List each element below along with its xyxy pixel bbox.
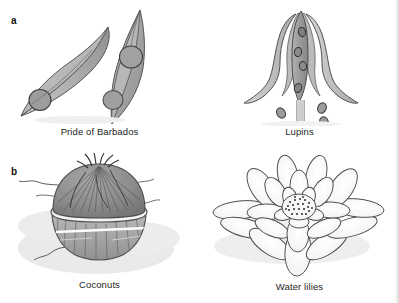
caption-pride-of-barbados: Pride of Barbados <box>0 126 199 137</box>
coconut-icon <box>0 152 199 278</box>
water-lily-icon <box>200 152 399 278</box>
figure-cell-pride-of-barbados: Pride of Barbados <box>0 0 199 151</box>
figure-cell-lupins: Lupins <box>200 0 399 151</box>
caption-water-lilies: Water lilies <box>200 281 399 292</box>
figure-cell-water-lilies: Water lilies <box>200 152 399 303</box>
caption-lupins: Lupins <box>200 126 399 137</box>
figure-container: a <box>0 0 399 303</box>
seed-pod-icon <box>0 0 199 126</box>
figure-cell-coconuts: Coconuts <box>0 152 199 303</box>
lupin-pod-icon <box>200 0 399 126</box>
caption-coconuts: Coconuts <box>0 279 199 290</box>
